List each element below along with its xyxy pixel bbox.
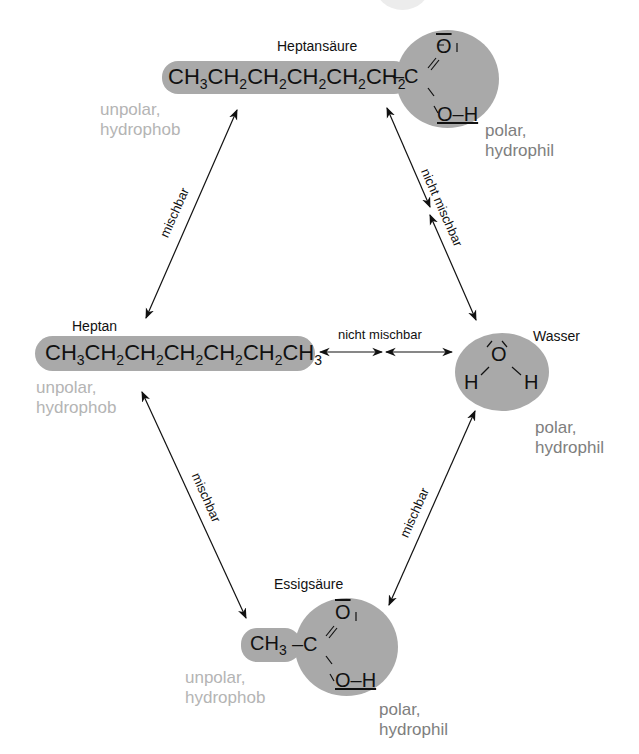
essigsaeure-polar-label: polar, hydrophil [379,700,448,740]
heptansaeure-chain-formula: CH3CH2CH2CH2CH2CH2 [168,64,405,90]
arrow-heptansaeure-heptan [146,110,237,318]
essigsaeure-unpolar-label: unpolar, hydrophob [185,668,265,708]
heptansaeure-polar-label: polar, hydrophil [485,121,554,161]
wasser-bonds [455,333,549,411]
essigsaeure-name: Essigsäure [274,576,343,592]
heptansaeure-name: Heptansäure [277,38,357,54]
relation-label-heptan-wasser: nicht mischbar [338,327,422,342]
heptan-name: Heptan [72,318,117,334]
heptansaeure-hydroxyl: O–H [437,104,478,124]
arrow-heptan-essigsaeure [142,392,246,618]
heptan-formula: CH3CH2CH2CH2CH2CH2CH3 [45,340,322,366]
miscibility-diagram: Heptansäure CH3CH2CH2CH2CH2CH2 –C O O–H … [0,0,639,754]
essigsaeure-hydroxyl: O–H [335,670,376,690]
heptansaeure-unpolar-label: unpolar, hydrophob [100,100,180,140]
arrow-wasser-essigsaeure [389,411,475,605]
heptan-unpolar-label: unpolar, hydrophob [36,378,116,418]
essigsaeure-methyl: CH3 [250,632,287,655]
wasser-polar-label: polar, hydrophil [535,418,604,458]
